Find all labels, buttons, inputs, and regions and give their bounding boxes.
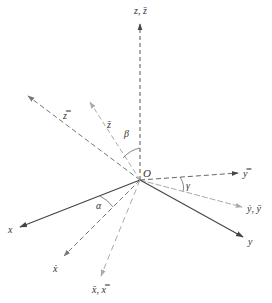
y-dot-y-bar-axis <box>140 180 242 207</box>
alpha-arc <box>100 196 113 207</box>
gamma-arc <box>180 177 184 191</box>
y-double-bar-label: y̿ <box>242 168 251 179</box>
z-bar-axis <box>90 102 140 180</box>
beta-label: β <box>123 128 129 139</box>
x-bar-x-double-bar-axis <box>101 180 140 276</box>
x-axis-label: x <box>7 224 13 235</box>
gamma-label: γ <box>186 180 191 191</box>
x-dot-axis <box>64 180 140 256</box>
z-bar-label: z̄ <box>106 119 111 130</box>
z-double-bar-label: z̿ <box>62 110 71 121</box>
y-axis-label: y <box>247 236 253 247</box>
y-dot-y-bar-label: ẏ, ȳ <box>246 203 261 214</box>
alpha-label: α <box>96 200 102 211</box>
beta-arc <box>123 148 140 158</box>
coordinate-frame-diagram: O z, z̄ z̿ z̄ y̿ ẏ, ȳ y x ẋ x̄, x̿ α β … <box>0 0 272 303</box>
x-bar-x-double-bar-label: x̄, x̿ <box>91 284 110 295</box>
z-axis-label: z, z̄ <box>133 5 147 16</box>
origin-label: O <box>143 167 151 179</box>
y-axis <box>140 180 243 237</box>
y-double-bar-axis <box>140 173 238 180</box>
x-axis <box>20 180 140 227</box>
x-dot-label: ẋ <box>52 263 58 274</box>
